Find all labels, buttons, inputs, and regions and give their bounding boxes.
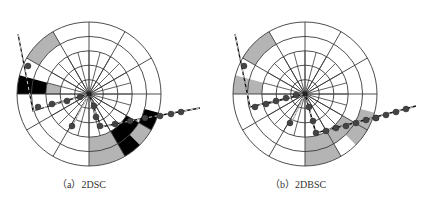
grid-spoke xyxy=(269,32,305,94)
sample-point xyxy=(333,125,339,131)
sample-point xyxy=(252,104,258,110)
center-point xyxy=(303,92,308,97)
polar-grid-2dbsc xyxy=(0,0,429,197)
panel-b xyxy=(0,0,429,197)
sample-point xyxy=(293,92,299,98)
sample-point xyxy=(283,95,289,101)
sample-point xyxy=(383,112,389,118)
sample-point xyxy=(313,130,319,136)
grid-spoke xyxy=(263,83,305,94)
sample-point xyxy=(241,63,247,69)
sample-point xyxy=(287,120,293,126)
grid-spoke xyxy=(305,94,347,105)
grid-spoke xyxy=(305,32,341,94)
sample-point xyxy=(310,118,316,124)
sample-point xyxy=(393,109,399,115)
grid-spoke xyxy=(305,52,316,94)
sample-point xyxy=(306,104,312,110)
grid-spoke xyxy=(305,58,367,94)
caption-2dbsc: （b）2DBSC xyxy=(270,176,326,191)
sample-point xyxy=(403,106,409,112)
grid-spoke xyxy=(305,83,347,94)
sample-point xyxy=(353,120,359,126)
grid-spoke xyxy=(294,52,305,94)
sample-point xyxy=(323,128,329,134)
sample-point xyxy=(373,115,379,121)
sample-point xyxy=(343,123,349,129)
shaded-sector xyxy=(243,32,277,66)
sample-point xyxy=(273,98,279,104)
sample-point xyxy=(363,117,369,123)
sample-point xyxy=(263,101,269,107)
